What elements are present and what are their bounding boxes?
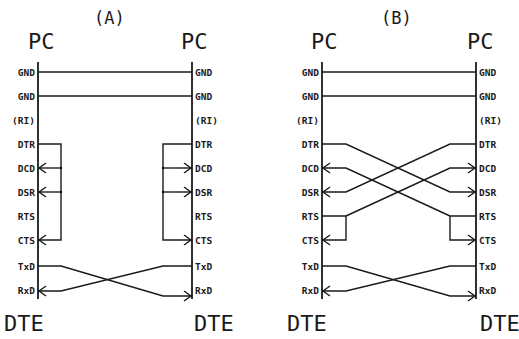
pin-label: CTS <box>195 235 212 246</box>
pin-label: (RI) <box>479 115 502 126</box>
pin-label: GND <box>302 91 319 102</box>
diagram-b-left-pin-labels: GND GND (RI) DTR DCD DSR RTS CTS TxD RxD <box>296 67 319 296</box>
pin-label: DTR <box>18 139 35 150</box>
pin-label: DCD <box>18 163 35 174</box>
diagram-b-right-pin-labels: GND GND (RI) DTR DCD DSR RTS CTS TxD RxD <box>479 67 502 296</box>
diagram-b-left-header: PC <box>311 29 338 54</box>
pin-label: GND <box>195 91 212 102</box>
pin-label: GND <box>479 91 496 102</box>
pin-label: RTS <box>18 211 35 222</box>
pin-label: DSR <box>302 187 319 198</box>
diagram-a-left-loopback <box>38 144 62 245</box>
diagram-a-left-pin-labels: GND GND (RI) DTR DCD DSR RTS CTS TxD RxD <box>12 67 35 296</box>
pin-label: GND <box>302 67 319 78</box>
pin-label: DCD <box>195 163 212 174</box>
pin-label: GND <box>18 91 35 102</box>
pin-label: RTS <box>479 211 496 222</box>
pin-label: DTR <box>195 139 212 150</box>
pin-label: CTS <box>302 235 319 246</box>
pin-label: DSR <box>195 187 212 198</box>
pin-label: GND <box>18 67 35 78</box>
pin-label: CTS <box>18 235 35 246</box>
diagram-b-left-footer: DTE <box>287 311 327 336</box>
pin-label: RTS <box>195 211 212 222</box>
diagram-a-right-pin-labels: GND GND (RI) DTR DCD DSR RTS CTS TxD RxD <box>195 67 218 296</box>
diagram-a-data-crossover <box>38 266 192 301</box>
pin-label: (RI) <box>12 115 35 126</box>
diagram-a: (A) PC PC GND GND (RI) DTR DCD DSR RTS C… <box>4 8 234 336</box>
pin-label: RxD <box>195 285 212 296</box>
diagram-a-right-loopback <box>162 144 192 245</box>
pin-label: RxD <box>302 285 319 296</box>
pin-label: TxD <box>479 261 496 272</box>
null-modem-wiring-diagram: (A) PC PC GND GND (RI) DTR DCD DSR RTS C… <box>0 0 519 339</box>
pin-label: GND <box>479 67 496 78</box>
pin-label: CTS <box>479 235 496 246</box>
diagram-a-right-footer: DTE <box>194 311 234 336</box>
pin-label: DSR <box>479 187 496 198</box>
diagram-b-right-footer: DTE <box>480 311 519 336</box>
diagram-a-left-header: PC <box>28 29 55 54</box>
diagram-a-right-header: PC <box>181 29 208 54</box>
pin-label: TxD <box>18 261 35 272</box>
pin-label: RxD <box>479 285 496 296</box>
pin-label: DSR <box>18 187 35 198</box>
diagram-b-right-header: PC <box>467 29 494 54</box>
pin-label: DTR <box>302 139 319 150</box>
diagram-b: (B) PC PC GND GND (RI) DTR DCD DSR RTS C… <box>287 8 519 336</box>
diagram-b-handshake-crossover <box>322 144 476 245</box>
pin-label: (RI) <box>195 115 218 126</box>
pin-label: DCD <box>302 163 319 174</box>
diagram-a-title: (A) <box>94 8 125 28</box>
diagram-a-left-footer: DTE <box>4 311 44 336</box>
pin-label: DCD <box>479 163 496 174</box>
pin-label: DTR <box>479 139 496 150</box>
pin-label: RxD <box>18 285 35 296</box>
pin-label: (RI) <box>296 115 319 126</box>
pin-label: TxD <box>195 261 212 272</box>
pin-label: TxD <box>302 261 319 272</box>
diagram-b-data-crossover <box>322 266 476 301</box>
diagram-b-title: (B) <box>381 8 412 28</box>
pin-label: RTS <box>302 211 319 222</box>
pin-label: GND <box>195 67 212 78</box>
